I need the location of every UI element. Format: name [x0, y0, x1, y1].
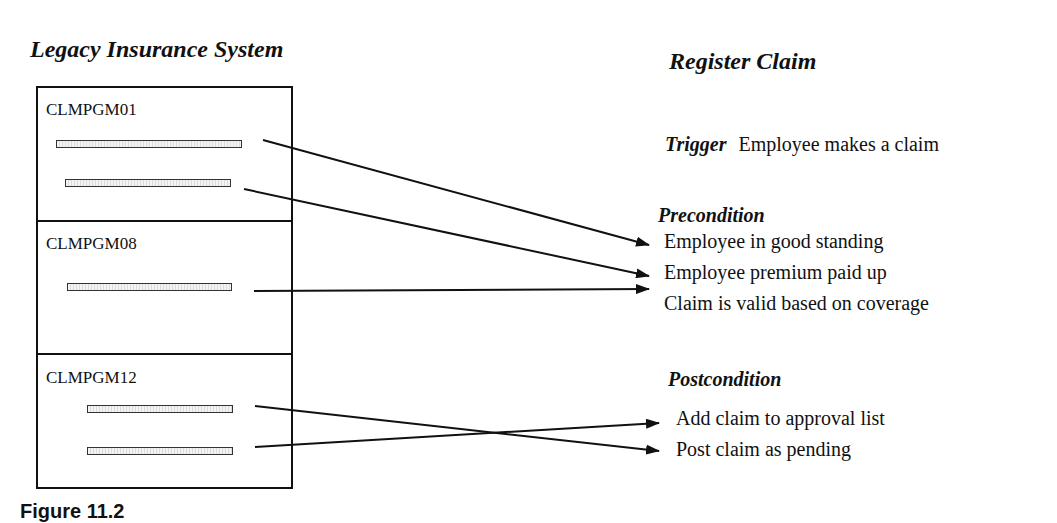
trigger-text: Employee makes a claim: [738, 133, 938, 155]
postcondition-item: Post claim as pending: [676, 438, 851, 461]
precondition-item: Claim is valid based on coverage: [664, 292, 929, 315]
use-case-title: Register Claim: [669, 48, 816, 75]
trigger-label: Trigger: [665, 133, 726, 155]
figure-caption: Figure 11.2: [20, 500, 125, 523]
postcondition-label: Postcondition: [668, 368, 781, 391]
precondition-label: Precondition: [658, 204, 765, 227]
precondition-item: Employee premium paid up: [664, 261, 887, 284]
postcondition-item: Add claim to approval list: [676, 407, 885, 430]
arrow-pgm01-2-to-premium: [244, 189, 649, 276]
precondition-item: Employee in good standing: [664, 230, 883, 253]
arrow-pgm08-to-premium: [254, 289, 649, 291]
arrow-pgm01-1-to-good-standing: [263, 140, 649, 245]
trigger-row: Trigger Employee makes a claim: [665, 133, 939, 156]
